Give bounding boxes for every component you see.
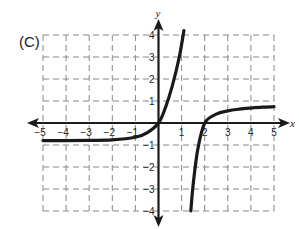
x-tick-label: 4 xyxy=(248,127,254,138)
x-tick-label: 3 xyxy=(225,127,231,138)
y-tick-label: −1 xyxy=(143,140,155,151)
y-tick-label: −3 xyxy=(143,184,155,195)
y-tick-label: 3 xyxy=(149,52,155,63)
y-tick-label: 4 xyxy=(149,30,155,41)
curve-branch xyxy=(43,31,184,141)
y-tick-label: 2 xyxy=(149,74,155,85)
x-tick-label: −3 xyxy=(80,127,92,138)
y-tick-label: −4 xyxy=(143,206,155,217)
y-tick-label: 1 xyxy=(149,96,155,107)
x-tick-label: −5 xyxy=(34,127,46,138)
x-tick-label: 1 xyxy=(179,127,185,138)
x-axis-label: x xyxy=(289,117,295,129)
y-tick-label: −2 xyxy=(143,162,155,173)
y-axis-label: y xyxy=(155,7,161,19)
x-tick-label: −2 xyxy=(104,127,116,138)
graph: −5−4−3−2−1123454321−1−2−3−4xy xyxy=(0,0,299,229)
x-tick-label: 5 xyxy=(271,127,277,138)
x-tick-label: −4 xyxy=(57,127,69,138)
